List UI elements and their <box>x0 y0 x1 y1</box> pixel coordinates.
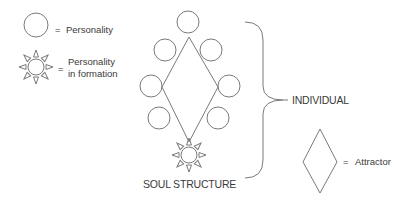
individual-label: INDIVIDUAL <box>292 95 349 106</box>
individual-brace-icon <box>245 22 288 178</box>
legend-attractor-equals: = <box>343 157 349 167</box>
soul-structure-title: SOUL STRUCTURE <box>143 179 236 190</box>
personality-circle-icon <box>218 75 240 97</box>
personality-circle-icon <box>177 11 199 33</box>
personality-circle-icon <box>207 107 229 129</box>
legend-in-formation-equals: = <box>58 64 64 74</box>
soul-structure-diagram <box>0 0 411 207</box>
legend-personality-circle-icon <box>24 13 48 37</box>
personality-in-formation-sun-icon <box>172 138 206 172</box>
personality-circles <box>140 11 240 129</box>
legend-in-formation-label-line2: in formation <box>68 69 118 79</box>
legend-attractor-label: Attractor <box>355 157 391 167</box>
legend-in-formation-label-line1: Personality <box>68 57 115 67</box>
legend-sun-icon <box>19 50 53 84</box>
personality-circle-icon <box>200 39 222 61</box>
personality-circle-icon <box>140 75 162 97</box>
legend-personality-equals: = <box>55 25 61 35</box>
personality-circle-icon <box>148 107 170 129</box>
main-attractor-diamond-icon <box>162 37 218 142</box>
legend-attractor-diamond-icon <box>303 129 337 193</box>
personality-circle-icon <box>154 39 176 61</box>
legend-personality-label: Personality <box>66 25 113 35</box>
